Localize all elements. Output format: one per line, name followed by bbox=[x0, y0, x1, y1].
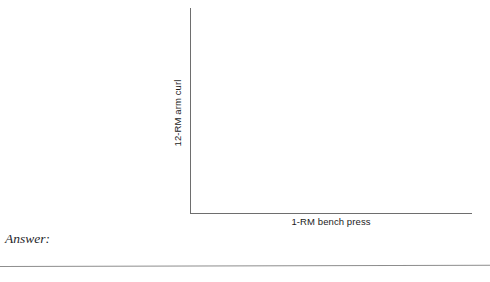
plot-area bbox=[191, 9, 472, 213]
y-axis-label: 12-RM arm curl bbox=[173, 80, 183, 147]
graph-figure: 12-RM arm curl 1-RM bench press bbox=[0, 0, 490, 235]
x-axis-line bbox=[190, 213, 472, 214]
x-axis-label: 1-RM bench press bbox=[190, 217, 472, 227]
worksheet-page: 12-RM arm curl 1-RM bench press Answer: bbox=[0, 0, 490, 282]
answer-prompt-label: Answer: bbox=[5, 232, 50, 247]
section-divider bbox=[0, 265, 490, 267]
